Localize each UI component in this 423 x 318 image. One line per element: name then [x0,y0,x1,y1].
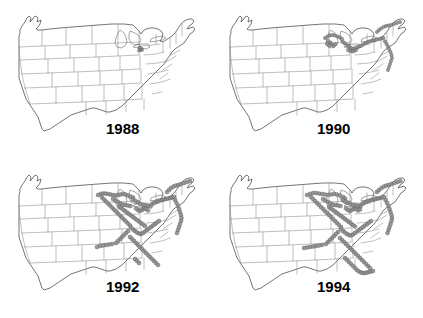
occurrence-dot [157,219,161,223]
occurrence-dot [339,204,343,208]
occurrence-dot [399,179,403,183]
occurrence-dot [346,48,349,51]
occurrence-dot [358,208,362,212]
us-nation-outline [19,16,195,131]
occurrence-dot [382,36,385,39]
map-panel: 1992 [0,159,211,318]
occurrence-dot [156,263,160,267]
occurrence-dot [114,241,118,245]
map-panel: 1994 [211,159,422,318]
occurrence-dot [137,261,141,265]
occurrence-dot [143,224,147,228]
occurrence-dot [371,269,375,273]
map-panel: 1988 [0,0,211,159]
occurrence-dot [344,207,348,211]
occurrence-dot [138,46,141,49]
occurrence-dot [188,179,192,183]
occurrence-dot [129,204,133,208]
occurrence-dot [369,219,373,223]
panel-year-label: 1988 [106,120,139,137]
map-panel: 1990 [211,0,422,159]
occurrence-dot [390,53,393,56]
occurrence-dot [398,20,401,23]
occurrence-dot [175,231,179,235]
occurrence-dot [134,207,138,211]
occurrence-dot [386,68,389,71]
occurrence-dot [324,242,328,246]
panel-year-label: 1994 [317,278,350,295]
us-nation-outline [230,16,406,131]
occurrence-dot [334,42,337,45]
occurrence-dot [325,42,328,45]
occurrence-dot [146,209,150,213]
panel-year-label: 1992 [106,278,139,295]
panel-year-label: 1990 [317,120,350,137]
occurrence-dot [95,245,99,249]
occurrence-dot [137,49,140,52]
occurrence-dot [386,231,390,235]
occurrence-dot [353,225,357,229]
occurrence-dot [302,246,306,250]
map-series-figure: 1988 [0,0,423,318]
occurrence-dot [140,48,143,51]
